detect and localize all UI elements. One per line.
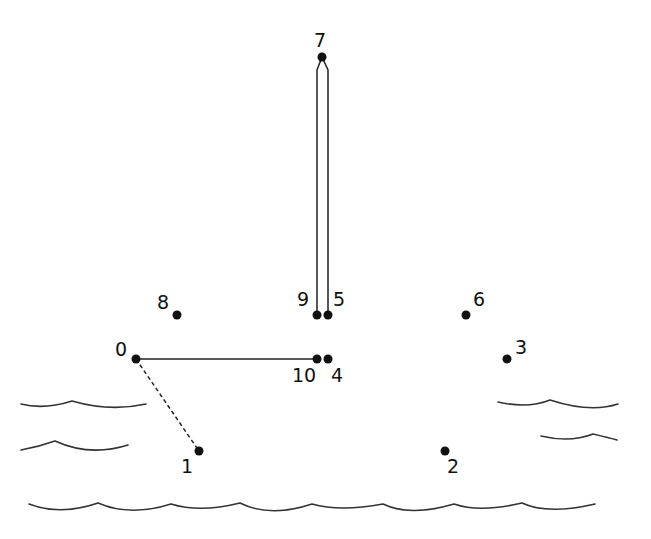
dot-marker[interactable] bbox=[503, 355, 512, 364]
dot-number-label: 7 bbox=[314, 29, 326, 51]
dot-marker[interactable] bbox=[324, 355, 333, 364]
dot-number-label: 10 bbox=[292, 364, 316, 386]
dot-number-label: 0 bbox=[115, 338, 127, 360]
dot-number-label: 1 bbox=[181, 455, 193, 477]
wave-line-left-lower bbox=[21, 441, 128, 450]
water-waves bbox=[21, 400, 618, 511]
dot-marker[interactable] bbox=[313, 311, 322, 320]
dot-9[interactable]: 9 bbox=[297, 288, 322, 320]
dot-5[interactable]: 5 bbox=[324, 288, 346, 320]
dot-3[interactable]: 3 bbox=[503, 336, 528, 364]
dot-number-label: 4 bbox=[331, 364, 343, 386]
dot-marker[interactable] bbox=[195, 447, 204, 456]
dot-8[interactable]: 8 bbox=[157, 291, 182, 320]
solid-line-7-to-9 bbox=[317, 57, 322, 315]
dot-2[interactable]: 2 bbox=[441, 447, 460, 478]
dot-6[interactable]: 6 bbox=[462, 288, 486, 320]
dot-number-label: 6 bbox=[473, 288, 485, 310]
dot-number-label: 2 bbox=[447, 455, 459, 477]
dot-number-label: 3 bbox=[515, 336, 527, 358]
solid-line-7-to-5 bbox=[322, 57, 328, 315]
dot-number-label: 9 bbox=[297, 288, 309, 310]
dot-marker[interactable] bbox=[324, 311, 333, 320]
dot-marker[interactable] bbox=[318, 53, 327, 62]
dot-number-label: 8 bbox=[157, 291, 169, 313]
wave-line-left-upper bbox=[21, 401, 146, 407]
dot-4[interactable]: 4 bbox=[324, 355, 344, 387]
dot-to-dot-puzzle: 012345678910 bbox=[0, 0, 651, 539]
dot-marker[interactable] bbox=[173, 311, 182, 320]
wave-line-bottom bbox=[29, 503, 595, 511]
dot-number-label: 5 bbox=[333, 288, 345, 310]
dot-0[interactable]: 0 bbox=[115, 338, 141, 364]
dot-7[interactable]: 7 bbox=[314, 29, 327, 62]
connecting-lines bbox=[136, 57, 328, 451]
dot-marker[interactable] bbox=[313, 355, 322, 364]
dashed-line-0-to-1 bbox=[136, 359, 199, 451]
dot-1[interactable]: 1 bbox=[181, 447, 204, 478]
wave-line-right-upper bbox=[498, 400, 618, 408]
numbered-dots: 012345678910 bbox=[115, 29, 527, 477]
dot-marker[interactable] bbox=[132, 355, 141, 364]
dot-marker[interactable] bbox=[462, 311, 471, 320]
wave-line-right-lower bbox=[541, 434, 617, 440]
